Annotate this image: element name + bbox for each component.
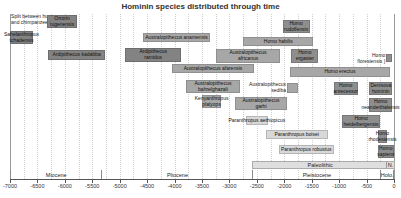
hominin-timeline-chart: Hominin species distributed through time… (0, 0, 401, 198)
species-label-homo-floresiensis: Homofloresiensis } (357, 53, 385, 64)
species-bar-homo-antecessor: Homoantecessor (334, 82, 358, 95)
gridline (65, 14, 66, 179)
gridline (106, 14, 107, 179)
gridline (133, 14, 134, 179)
gridline (51, 14, 52, 179)
species-bar-homo-heidelbergensis: Homoheidelbergensis (342, 115, 380, 128)
epoch-pleistocene: Pleistocene (252, 170, 380, 179)
paleolithic-label: Paleolithic (253, 162, 386, 168)
gridline (37, 14, 38, 179)
species-bar-australopithecus-africanus: Australopithecusafricanus (216, 49, 281, 63)
axis-tick-label: -1000 (332, 183, 346, 189)
species-bar-denisova-hominin: Denisovahominin (369, 82, 392, 95)
gridline (325, 14, 326, 179)
epoch-pliocene: Pliocene (101, 170, 252, 179)
gridline (367, 14, 368, 179)
species-label-australopithecus-sediba: Australopithecussediba (249, 82, 286, 93)
epoch-holo: Holo. (380, 170, 394, 179)
axis-tick-label: -3000 (222, 183, 236, 189)
gridline (120, 14, 121, 179)
species-bar-orrorin-tugenensis: Orrorintugenensis (47, 15, 77, 28)
gridline (79, 14, 80, 179)
species-bar-homo-rudolfensis: Homorudolfensis (283, 20, 310, 33)
species-bar-homo-sapiens: Homosapiens (378, 145, 394, 158)
axis-tick-label: -6500 (30, 183, 44, 189)
species-bar-paranthropus-boisei: Paranthropus boisei (266, 130, 328, 139)
species-bar-paranthropus-robustus: Paranthropus robustus (279, 145, 334, 154)
chart-title: Hominin species distributed through time (0, 2, 401, 11)
species-bar-sahelanthropus-tchadensis: Sahelanthropustchadensis (10, 31, 33, 44)
species-bar-homo-floresiensis (386, 54, 392, 62)
axis-tick-label: -5500 (85, 183, 99, 189)
axis-tick-label: -2500 (250, 183, 264, 189)
gridline (339, 14, 340, 179)
species-bar-paranthropus-aethiopicus: Paranthropus aethiopicus (246, 116, 268, 125)
species-bar-australopithecus-sediba (287, 83, 298, 93)
axis-tick-label: -7000 (3, 183, 17, 189)
plot-area: Split between humansand chimpanzeesOrror… (10, 13, 395, 198)
species-bar-homo-erectus: Homo erectus (290, 67, 389, 77)
gridline (229, 14, 230, 179)
gridline (353, 14, 354, 179)
epoch-miocene: Miocene (10, 170, 101, 179)
axis-tick-label: -4500 (140, 183, 154, 189)
neolithic-label: N. (386, 162, 394, 168)
species-bar-australopithecus-bahrelghazali: Australopithecusbahrelghazali (186, 80, 241, 93)
species-bar-homo-habilis: Homo habilis (243, 37, 313, 46)
species-bar-kenyanthropus-platyops: Kenyanthropusplatyops (202, 95, 221, 108)
species-bar-homo-neanderthalensis: Homoneanderthalensis (369, 98, 391, 112)
axis-tick-label: -5000 (113, 183, 127, 189)
axis-tick-label: 0 (392, 183, 395, 189)
species-bar-homo-ergaster: Homoergaster (291, 49, 318, 63)
gridline (92, 14, 93, 179)
axis-tick-label: -2000 (277, 183, 291, 189)
species-bar-homo-rhodesiensis: Homorhodesiensis (378, 130, 388, 143)
axis-tick-label: -4000 (168, 183, 182, 189)
axis-tick-label: -500 (361, 183, 372, 189)
species-bar-australopithecus-afarensis: Australopithecus afarensis (172, 64, 254, 73)
species-bar-ardipithecus-ramidus: Ardipithecusramidus (125, 48, 181, 62)
species-bar-australopithecus-anamensis: Australopithecus anamensis (143, 33, 210, 42)
axis-tick-label: -3500 (195, 183, 209, 189)
axis-tick-label: -6000 (58, 183, 72, 189)
species-bar-ardipithecus-kadabba: Ardipithecus kadabba (48, 50, 105, 60)
species-bar-australopithecus-garhi: Australopithecusgarhi (235, 97, 287, 110)
axis-tick-label: -1500 (305, 183, 319, 189)
paleolithic-band: PaleolithicN. (252, 161, 395, 169)
